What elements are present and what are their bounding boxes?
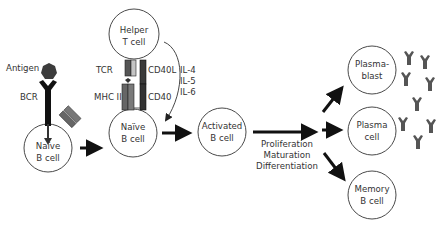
cytokine-arrow bbox=[164, 42, 180, 120]
plasmablast-cell: Plasma- blast bbox=[348, 46, 396, 94]
antibody-y-icon bbox=[426, 119, 436, 133]
arrow-to-memory-b-cell bbox=[324, 153, 343, 178]
naive-b-cell-1-line2: B cell bbox=[36, 153, 59, 163]
helper-t-cell: Helper T cell bbox=[109, 9, 159, 59]
process-differentiation: Differentiation bbox=[256, 161, 318, 171]
plasma-cell-line2: cell bbox=[365, 132, 380, 142]
antibody-y-icon bbox=[404, 51, 414, 65]
cytokine-il6: IL-6 bbox=[180, 87, 196, 97]
antibody-y-icon bbox=[425, 77, 435, 91]
cd40l-label: CD40L bbox=[148, 65, 177, 75]
antibody-y-icon bbox=[398, 117, 408, 131]
activated-b-cell: Activated B cell bbox=[198, 108, 246, 156]
activated-b-cell-line2: B cell bbox=[210, 133, 233, 143]
activated-b-cell-line1: Activated bbox=[202, 121, 243, 131]
mhc-ii-molecule-icon bbox=[59, 106, 81, 128]
bcr-label: BCR bbox=[20, 92, 38, 102]
cytokine-il4: IL-4 bbox=[180, 65, 196, 75]
memory-b-cell: Memory B cell bbox=[348, 171, 396, 219]
naive-b-cell-2-line1: Naïve bbox=[121, 122, 145, 132]
cd40-label: CD40 bbox=[148, 92, 172, 102]
mhc-ii-complex-icon bbox=[122, 84, 128, 110]
cd40l-icon bbox=[140, 60, 146, 84]
plasma-cell-line1: Plasma bbox=[357, 120, 388, 130]
antigen-hexagon-icon bbox=[41, 63, 57, 79]
tcr-label: TCR bbox=[95, 65, 113, 75]
antigen-label: Antigen bbox=[6, 63, 39, 73]
naive-b-cell-2-line2: B cell bbox=[121, 134, 144, 144]
tcr-icon bbox=[125, 60, 131, 76]
arrow-to-plasmablast bbox=[323, 89, 341, 112]
b-cell-diagram: Naïve B cell Antigen BCR Helper T cell N… bbox=[0, 0, 445, 232]
naive-b-cell-2: Naïve B cell bbox=[109, 109, 157, 157]
memory-b-cell-line1: Memory bbox=[355, 184, 390, 194]
antibody-y-icon bbox=[412, 97, 422, 111]
peptide-icon bbox=[125, 78, 131, 83]
antibody-y-icon bbox=[420, 55, 430, 69]
tcr-mhc-cd40-complex bbox=[122, 60, 146, 110]
antibody-y-icon bbox=[413, 135, 423, 149]
helper-t-cell-line2: T cell bbox=[122, 37, 146, 47]
process-maturation: Maturation bbox=[264, 150, 311, 160]
plasmablast-line2: blast bbox=[362, 71, 384, 81]
mhc-ii-label: MHC II bbox=[94, 92, 122, 102]
memory-b-cell-line2: B cell bbox=[360, 196, 383, 206]
process-proliferation: Proliferation bbox=[261, 139, 313, 149]
antibodies-group bbox=[398, 51, 436, 149]
plasmablast-line1: Plasma- bbox=[355, 59, 389, 69]
plasma-cell: Plasma cell bbox=[348, 107, 396, 155]
helper-t-cell-line1: Helper bbox=[120, 25, 149, 35]
cytokine-il5: IL-5 bbox=[180, 76, 196, 86]
cd40-icon bbox=[140, 84, 146, 110]
antibody-y-icon bbox=[401, 72, 411, 86]
